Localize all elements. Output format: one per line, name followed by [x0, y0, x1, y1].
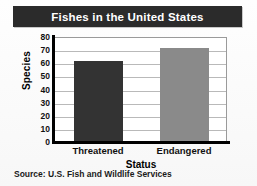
y-tick-label: 40: [16, 86, 50, 95]
y-tick-label: 20: [16, 112, 50, 121]
y-tick-label: 10: [16, 125, 50, 134]
y-tick-label: 50: [16, 72, 50, 81]
y-tick-label: 70: [16, 46, 50, 55]
y-tick-label: 80: [16, 33, 50, 42]
x-axis-line: [52, 141, 230, 144]
y-tick-label: 0: [16, 138, 50, 147]
plot-area: [55, 37, 227, 142]
y-tick-label: 60: [16, 59, 50, 68]
chart-title: Fishes in the United States: [13, 6, 242, 27]
bar-endangered: [160, 48, 209, 143]
chart-plot-region: Species 80706050403020100 ThreatenedEnda…: [13, 31, 242, 159]
source-note: Source: U.S. Fish and Wildlife Services: [14, 169, 172, 179]
y-axis-tick-labels: 80706050403020100: [13, 31, 50, 146]
y-axis-line: [52, 35, 55, 144]
y-tick-label: 30: [16, 99, 50, 108]
bar-threatened: [74, 61, 123, 142]
chart-figure: Fishes in the United States Species 8070…: [0, 0, 257, 186]
x-tick-label: Threatened: [53, 145, 143, 156]
chart-title-bar: Fishes in the United States: [13, 6, 242, 27]
x-tick-label: Endangered: [139, 145, 229, 156]
